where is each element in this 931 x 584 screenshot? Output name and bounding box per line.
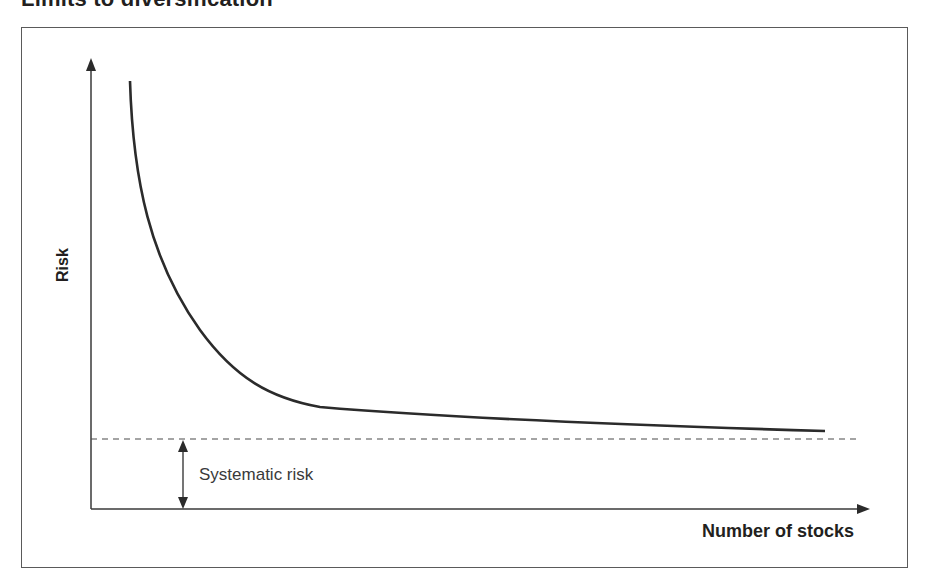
y-axis-arrow-icon <box>86 58 96 71</box>
arrow-down-icon <box>178 497 188 509</box>
y-axis <box>86 58 96 509</box>
systematic-risk-double-arrow <box>178 440 188 509</box>
y-axis-label: Risk <box>54 248 72 282</box>
systematic-risk-label: Systematic risk <box>199 465 313 485</box>
x-axis <box>91 504 870 514</box>
plot-area <box>0 0 931 584</box>
arrow-up-icon <box>178 440 188 452</box>
x-axis-label: Number of stocks <box>702 521 854 542</box>
risk-curve <box>130 81 825 431</box>
x-axis-arrow-icon <box>857 504 870 514</box>
